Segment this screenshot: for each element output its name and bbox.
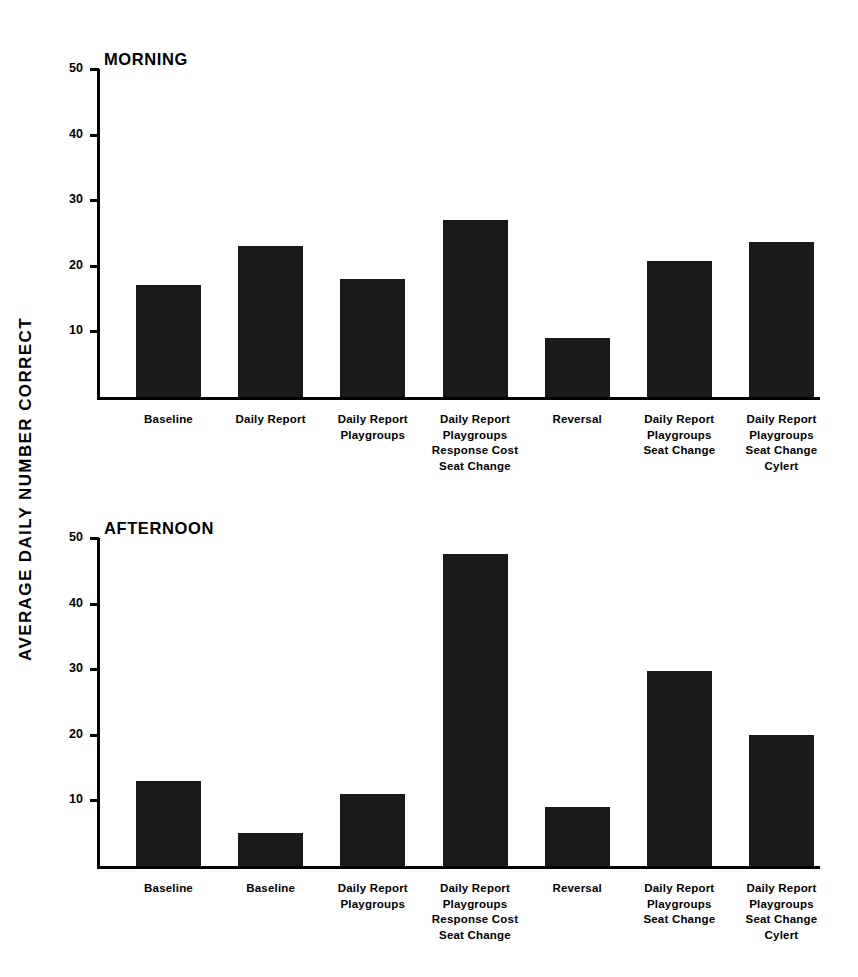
bar <box>749 242 814 397</box>
bar <box>136 285 201 397</box>
bar <box>545 338 610 397</box>
plot-area-afternoon <box>52 509 852 869</box>
bar <box>647 261 712 397</box>
y-axis-title: AVERAGE DAILY NUMBER CORRECT <box>0 0 52 977</box>
chart-panel-morning: MORNING 1020304050 BaselineDaily ReportD… <box>52 40 852 480</box>
x-axis-category-label: Daily Report Playgroups Seat Change Cyle… <box>721 412 843 474</box>
chart-panel-afternoon: AFTERNOON 1020304050 BaselineBaselineDai… <box>52 509 852 949</box>
bar <box>238 246 303 397</box>
plot-area-morning <box>52 40 852 400</box>
bar <box>136 781 201 866</box>
y-axis-title-text: AVERAGE DAILY NUMBER CORRECT <box>16 317 36 661</box>
bar <box>238 833 303 866</box>
bar <box>545 807 610 866</box>
bar <box>647 671 712 866</box>
bar <box>443 220 508 397</box>
figure-canvas: AVERAGE DAILY NUMBER CORRECT MORNING 102… <box>0 0 858 977</box>
bar <box>340 279 405 397</box>
bar <box>340 794 405 866</box>
bar <box>749 735 814 866</box>
x-axis-category-label: Daily Report Playgroups Seat Change Cyle… <box>721 881 843 943</box>
bar <box>443 554 508 866</box>
